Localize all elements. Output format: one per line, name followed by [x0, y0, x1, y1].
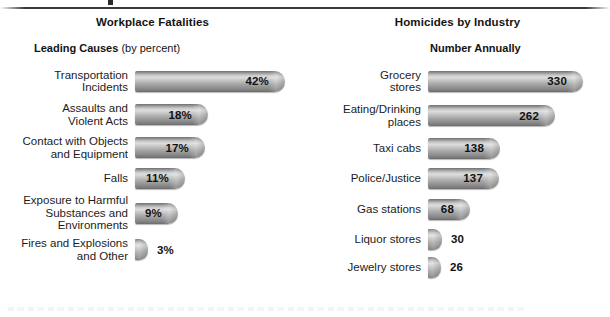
cut-off-title-fragment	[108, 0, 113, 5]
bar: 17%	[135, 137, 205, 158]
bar-row: Transportation Incidents42%	[0, 64, 305, 98]
bar-container: 42%	[135, 71, 285, 92]
bar-row: Jewelry stores26	[305, 253, 610, 281]
bar-row: Police/Justice137	[305, 163, 610, 193]
bar-category-label: Gas stations	[305, 203, 428, 216]
bar: 18%	[135, 104, 208, 125]
page-title-right: Homicides by Industry	[305, 12, 610, 31]
bar-rows-left: Transportation Incidents42%Assaults and …	[0, 64, 305, 265]
bar-category-label: Fires and Explosions and Other	[0, 237, 135, 262]
bar-container: 18%	[135, 104, 208, 125]
bottom-cut-off-caption	[8, 307, 528, 311]
bar: 3%	[135, 239, 148, 260]
bar: 138	[428, 138, 500, 159]
subtitle-left-strong: Leading Causes	[34, 42, 118, 54]
bar-category-label: Jewelry stores	[305, 261, 428, 274]
bar: 137	[428, 168, 499, 189]
bar: 68	[428, 199, 470, 220]
subtitle-right-strong: Number Annually	[430, 42, 521, 54]
workplace-fatalities-panel: Workplace Fatalities Leading Causes (by …	[0, 12, 305, 307]
bar-category-label: Police/Justice	[305, 172, 428, 185]
bar-category-label: Eating/Drinking places	[305, 103, 428, 128]
bar-value-label: 11%	[146, 172, 169, 184]
subtitle-left-light: (by percent)	[118, 42, 180, 54]
bar: 11%	[135, 168, 185, 189]
bar-value-label: 138	[464, 142, 484, 154]
bar-value-label: 137	[463, 172, 483, 184]
bar-value-label: 68	[441, 203, 454, 215]
bar-row: Falls11%	[0, 164, 305, 192]
bar-value-label: 262	[519, 110, 539, 122]
bar-container: 138	[428, 138, 500, 159]
bar-category-label: Contact with Objects and Equipment	[0, 135, 135, 160]
bar: 9%	[135, 203, 178, 224]
bar-category-label: Grocery stores	[305, 69, 428, 94]
bar-category-label: Exposure to Harmful Substances and Envir…	[0, 194, 135, 232]
bar-container: 137	[428, 168, 499, 189]
bar-container: 3%	[135, 239, 148, 260]
bar: 26	[428, 257, 441, 278]
bar-value-label: 26	[450, 261, 463, 273]
bar-row: Contact with Objects and Equipment17%	[0, 131, 305, 164]
bar-container: 330	[428, 71, 583, 92]
bar-container: 68	[428, 199, 470, 220]
bar-value-label: 17%	[165, 142, 189, 154]
bar-container: 17%	[135, 137, 205, 158]
bar: 330	[428, 71, 583, 92]
top-divider-rule	[0, 7, 610, 9]
bar-row: Liquor stores30	[305, 225, 610, 253]
bar-row: Fires and Explosions and Other3%	[0, 234, 305, 265]
subtitle-right: Number Annually	[305, 31, 610, 60]
bar-container: 9%	[135, 203, 178, 224]
bar-value-label: 9%	[145, 207, 162, 219]
bar-container: 26	[428, 257, 441, 278]
bar: 262	[428, 105, 555, 126]
bar-row: Taxi cabs138	[305, 133, 610, 163]
bar-category-label: Transportation Incidents	[0, 69, 135, 94]
bar-rows-right: Grocery stores330Eating/Drinking places2…	[305, 64, 610, 281]
page-title-left: Workplace Fatalities	[0, 12, 305, 31]
bar-value-label: 30	[451, 233, 464, 245]
bar: 30	[428, 229, 442, 250]
bar-row: Exposure to Harmful Substances and Envir…	[0, 192, 305, 234]
bar-container: 30	[428, 229, 442, 250]
bar-category-label: Liquor stores	[305, 233, 428, 246]
bar-category-label: Taxi cabs	[305, 142, 428, 155]
bar-container: 262	[428, 105, 555, 126]
bar-row: Assaults and Violent Acts18%	[0, 98, 305, 131]
bar-value-label: 18%	[168, 109, 192, 121]
bar-row: Eating/Drinking places262	[305, 98, 610, 133]
homicides-by-industry-panel: Homicides by Industry Number Annually Gr…	[305, 12, 610, 307]
bar-row: Grocery stores330	[305, 64, 610, 98]
bar-value-label: 330	[547, 75, 567, 87]
bar-value-label: 3%	[157, 244, 174, 256]
bar-row: Gas stations68	[305, 193, 610, 225]
subtitle-left: Leading Causes (by percent)	[0, 31, 305, 60]
bar-category-label: Assaults and Violent Acts	[0, 102, 135, 127]
bar-value-label: 42%	[245, 75, 269, 87]
bar: 42%	[135, 71, 285, 92]
bar-container: 11%	[135, 168, 185, 189]
bar-category-label: Falls	[0, 172, 135, 185]
